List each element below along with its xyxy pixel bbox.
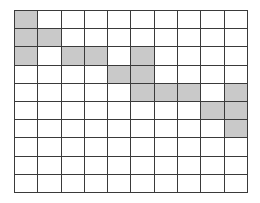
grid-cell-empty xyxy=(85,11,108,29)
grid-cell-empty xyxy=(62,66,85,84)
grid-cell-empty xyxy=(201,120,224,138)
grid-cell-filled xyxy=(15,29,38,47)
grid-cell-empty xyxy=(85,66,108,84)
grid-cell-empty xyxy=(108,84,131,102)
grid-cell-empty xyxy=(108,157,131,175)
grid-cell-empty xyxy=(225,175,248,193)
grid-cell-filled xyxy=(62,47,85,65)
grid-cell-empty xyxy=(178,102,201,120)
grid-cell-filled xyxy=(131,84,154,102)
grid-cell-empty xyxy=(201,84,224,102)
grid-cell-filled xyxy=(155,84,178,102)
grid-cell-empty xyxy=(155,29,178,47)
grid-cell-filled xyxy=(131,66,154,84)
grid-cell-empty xyxy=(38,175,61,193)
grid-cell-empty xyxy=(155,175,178,193)
grid-cell-empty xyxy=(131,157,154,175)
grid-cell-empty xyxy=(131,138,154,156)
grid-cell-empty xyxy=(178,120,201,138)
grid-cell-empty xyxy=(85,138,108,156)
grid-cell-empty xyxy=(178,47,201,65)
grid-cell-empty xyxy=(108,138,131,156)
grid-cell-empty xyxy=(15,175,38,193)
grid-cell-filled xyxy=(225,102,248,120)
grid-cell-empty xyxy=(225,66,248,84)
grid-cell-empty xyxy=(15,157,38,175)
grid-cell-empty xyxy=(201,157,224,175)
grid-cell-empty xyxy=(178,157,201,175)
grid-cell-empty xyxy=(201,11,224,29)
grid-cell-empty xyxy=(155,66,178,84)
grid-cell-empty xyxy=(38,138,61,156)
grid-cell-filled xyxy=(131,47,154,65)
grid-cell-empty xyxy=(38,66,61,84)
shaded-grid xyxy=(14,10,248,193)
grid-cell-empty xyxy=(201,47,224,65)
grid-cell-empty xyxy=(131,11,154,29)
grid-cell-empty xyxy=(225,138,248,156)
grid-cell-empty xyxy=(108,102,131,120)
grid-cell-empty xyxy=(155,120,178,138)
grid-cell-filled xyxy=(225,84,248,102)
grid-cell-filled xyxy=(201,102,224,120)
grid-cell-empty xyxy=(85,175,108,193)
grid-cell-empty xyxy=(38,157,61,175)
grid-cell-empty xyxy=(108,11,131,29)
grid-cell-empty xyxy=(225,47,248,65)
grid-cell-empty xyxy=(15,120,38,138)
grid-cell-empty xyxy=(131,102,154,120)
grid-cell-empty xyxy=(178,175,201,193)
grid-cell-empty xyxy=(131,175,154,193)
grid-cell-empty xyxy=(108,47,131,65)
grid-cell-empty xyxy=(38,120,61,138)
grid-cell-empty xyxy=(15,138,38,156)
grid-cell-empty xyxy=(131,29,154,47)
grid-cell-empty xyxy=(178,11,201,29)
grid-cell-empty xyxy=(201,138,224,156)
grid-cell-empty xyxy=(225,157,248,175)
grid-cell-empty xyxy=(62,11,85,29)
grid-cell-empty xyxy=(62,138,85,156)
grid-cell-filled xyxy=(178,84,201,102)
grid-cell-empty xyxy=(108,175,131,193)
grid-cell-filled xyxy=(108,66,131,84)
grid-cell-empty xyxy=(155,102,178,120)
grid-cell-empty xyxy=(15,102,38,120)
grid-cell-empty xyxy=(201,66,224,84)
grid-cell-empty xyxy=(131,120,154,138)
grid-cell-empty xyxy=(15,84,38,102)
grid-cell-empty xyxy=(178,29,201,47)
grid-cell-empty xyxy=(62,29,85,47)
grid-cell-empty xyxy=(38,102,61,120)
grid-cell-empty xyxy=(155,47,178,65)
grid-cell-empty xyxy=(38,84,61,102)
grid-cell-filled xyxy=(38,29,61,47)
grid-cell-empty xyxy=(155,11,178,29)
grid-cell-empty xyxy=(85,157,108,175)
grid-cell-empty xyxy=(108,120,131,138)
grid-cell-empty xyxy=(62,175,85,193)
grid-cell-empty xyxy=(62,120,85,138)
grid-cell-empty xyxy=(62,84,85,102)
grid-cell-empty xyxy=(85,84,108,102)
grid-cell-filled xyxy=(85,47,108,65)
grid-cell-empty xyxy=(38,11,61,29)
grid-cell-empty xyxy=(85,120,108,138)
grid-cell-empty xyxy=(85,102,108,120)
grid-cell-empty xyxy=(15,66,38,84)
grid-cell-empty xyxy=(201,175,224,193)
grid-cell-filled xyxy=(225,120,248,138)
grid-cell-empty xyxy=(38,47,61,65)
grid-cell-empty xyxy=(201,29,224,47)
grid-cell-filled xyxy=(15,11,38,29)
grid-cell-empty xyxy=(85,29,108,47)
grid-cell-empty xyxy=(178,66,201,84)
grid-cell-empty xyxy=(225,11,248,29)
grid-cell-empty xyxy=(108,29,131,47)
grid-cell-filled xyxy=(15,47,38,65)
grid-cell-empty xyxy=(225,29,248,47)
grid-cell-empty xyxy=(178,138,201,156)
grid-cell-empty xyxy=(155,138,178,156)
grid-cell-empty xyxy=(62,102,85,120)
grid-cell-empty xyxy=(62,157,85,175)
